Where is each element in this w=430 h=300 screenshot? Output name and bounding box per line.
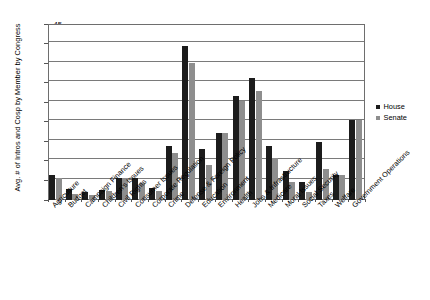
y-axis-title: Avg. # of Intros and Cosp by Member by C… xyxy=(13,8,22,208)
legend: HouseSenate xyxy=(376,101,407,123)
bar-house xyxy=(49,175,55,199)
bar-senate xyxy=(256,91,262,200)
bar-group xyxy=(81,24,98,200)
bar-senate xyxy=(189,63,195,199)
bar-chart: Avg. # of Intros and Cosp by Member by C… xyxy=(0,0,430,300)
legend-swatch-icon xyxy=(376,105,380,109)
bar-group xyxy=(65,24,82,200)
legend-swatch-icon xyxy=(376,116,380,120)
x-axis-tick-mark xyxy=(48,199,49,202)
bar-group xyxy=(348,24,365,200)
bar-group xyxy=(48,24,65,200)
bars-layer xyxy=(48,24,365,200)
legend-item: House xyxy=(376,101,407,112)
bar-group xyxy=(248,24,265,200)
legend-label: Senate xyxy=(384,113,407,122)
legend-item: Senate xyxy=(376,112,407,123)
legend-label: House xyxy=(384,102,405,111)
bar-senate xyxy=(356,120,362,199)
bar-group xyxy=(232,24,249,200)
